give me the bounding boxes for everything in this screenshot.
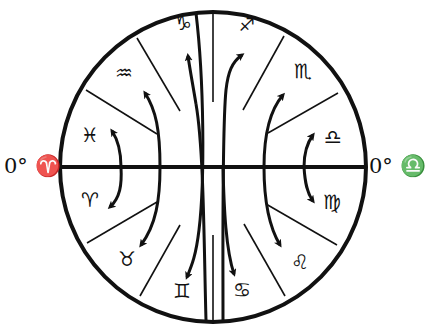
aquarius-glyph: ♒ <box>115 63 133 83</box>
divider-capricorn-aquarius <box>137 38 180 111</box>
arrow-to-aries <box>110 167 121 207</box>
arrow-to-cancer <box>223 167 234 274</box>
arrow-to-aquarius <box>145 93 160 167</box>
capricorn-glyph: ♑ <box>174 13 192 33</box>
arrow-to-pisces <box>112 131 121 167</box>
aries-glyph: ♈ <box>81 190 99 210</box>
pisces-glyph: ♓ <box>81 125 99 145</box>
scorpio-glyph: ♏ <box>294 61 312 81</box>
arrow-to-scorpio <box>264 95 283 167</box>
libra-glyph: ♎ <box>324 127 342 147</box>
arrow-to-libra <box>304 135 313 167</box>
sagittarius-glyph: ♐ <box>239 16 255 34</box>
arrow-to-capricorn <box>188 56 196 104</box>
taurus-glyph: ♉ <box>118 249 136 269</box>
label-zero-libra: 0° ♎ <box>369 156 426 177</box>
virgo-glyph: ♍ <box>323 192 341 212</box>
divider-sagittarius-scorpio <box>243 36 284 110</box>
arrow-to-leo <box>264 167 280 245</box>
arrow-to-virgo <box>304 167 313 201</box>
gemini-glyph: ♊ <box>173 281 191 301</box>
leo-glyph: ♌ <box>291 252 309 272</box>
label-zero-aries: 0° ♈ <box>4 156 61 177</box>
cancer-glyph: ♋ <box>233 280 251 300</box>
